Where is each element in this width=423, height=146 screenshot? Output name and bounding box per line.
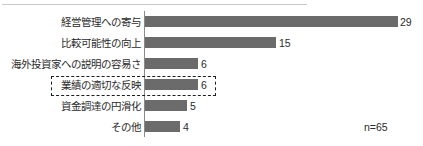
table-row: 海外投資家への説明の容易さ 6	[0, 53, 423, 74]
bar-segment	[145, 16, 398, 27]
category-label: 業績の適切な反映	[61, 79, 141, 91]
bar-value-label: 15	[279, 37, 291, 49]
bar-chart: 経営管理への寄与 29 比較可能性の向上 15 海外投資家への説明の容易さ 6 …	[0, 0, 423, 146]
table-row: その他 4	[0, 116, 423, 137]
category-label: 経営管理への寄与	[61, 16, 141, 28]
table-row: 資金調達の円滑化 5	[0, 95, 423, 116]
category-label: 海外投資家への説明の容易さ	[11, 58, 141, 70]
bar-value-label: 5	[190, 100, 196, 112]
bar-segment	[145, 100, 187, 111]
top-divider-rule	[2, 4, 307, 5]
bar-segment	[145, 79, 198, 90]
category-label: 比較可能性の向上	[61, 37, 141, 49]
table-row-highlighted: 業績の適切な反映 6	[0, 74, 423, 95]
category-label: 資金調達の円滑化	[61, 100, 141, 112]
category-label: その他	[111, 121, 141, 133]
bar-segment	[145, 121, 180, 132]
bar-value-label: 6	[201, 79, 207, 91]
bar-value-label: 4	[183, 121, 189, 133]
table-row: 比較可能性の向上 15	[0, 32, 423, 53]
sample-size-annotation: n=65	[364, 121, 388, 133]
bar-value-label: 29	[400, 16, 412, 28]
bar-segment	[145, 37, 276, 48]
bar-value-label: 6	[201, 58, 207, 70]
table-row: 経営管理への寄与 29	[0, 11, 423, 32]
bar-segment	[145, 58, 198, 69]
